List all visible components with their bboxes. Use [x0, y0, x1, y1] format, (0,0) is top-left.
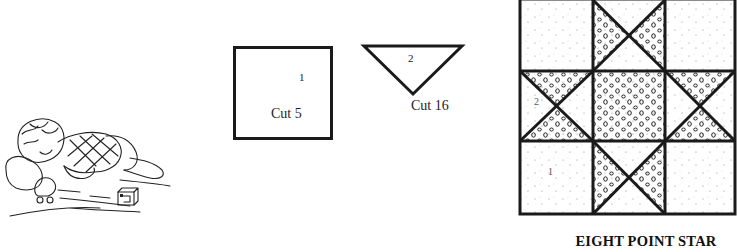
triangle-template-shape — [360, 42, 470, 102]
piece-number-label: 1 — [299, 71, 305, 83]
baby-illustration-icon — [0, 110, 200, 250]
block-square-label: 1 — [548, 166, 553, 177]
cut-count-label: Cut 5 — [271, 106, 302, 122]
eight-point-star-block — [518, 0, 737, 218]
piece-number-label: 2 — [408, 52, 414, 64]
cut-count-label: Cut 16 — [411, 98, 449, 114]
piece-triangle: 2 — [360, 42, 470, 102]
block-triangle-label: 2 — [534, 96, 539, 107]
piece-square: 1 Cut 5 — [233, 46, 333, 140]
block-title: EIGHT POINT STAR — [555, 233, 737, 250]
square-template-shape — [233, 46, 333, 140]
quilt-block-diagram: 2 1 — [518, 0, 737, 218]
baby-illustration — [0, 110, 200, 250]
